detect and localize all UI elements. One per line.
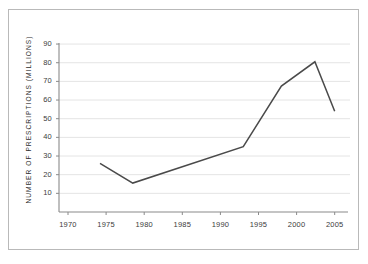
y-tick-label: 10	[36, 188, 52, 197]
x-tick-label: 2005	[315, 220, 355, 229]
y-tick-label: 70	[36, 76, 52, 85]
y-tick-label: 30	[36, 151, 52, 160]
x-tick-label: 1985	[162, 220, 202, 229]
x-tick-label: 1975	[86, 220, 126, 229]
x-tick-label: 2000	[277, 220, 317, 229]
y-tick-label: 40	[36, 132, 52, 141]
y-tick-label: 90	[36, 39, 52, 48]
y-tick-label: 50	[36, 114, 52, 123]
data-series-line	[100, 62, 335, 183]
y-tick-label: 20	[36, 170, 52, 179]
x-tick-label: 1990	[200, 220, 240, 229]
x-tick-label: 1980	[124, 220, 164, 229]
y-tick-label: 60	[36, 95, 52, 104]
chart-figure: NUMBER OF PRESCRIPTIONS (MILLIONS) 10203…	[0, 0, 368, 264]
x-tick-label: 1995	[239, 220, 279, 229]
gridline-group	[59, 44, 350, 193]
x-tick-label: 1970	[48, 220, 88, 229]
y-axis-title: NUMBER OF PRESCRIPTIONS (MILLIONS)	[25, 44, 32, 204]
y-tick-label: 80	[36, 58, 52, 67]
